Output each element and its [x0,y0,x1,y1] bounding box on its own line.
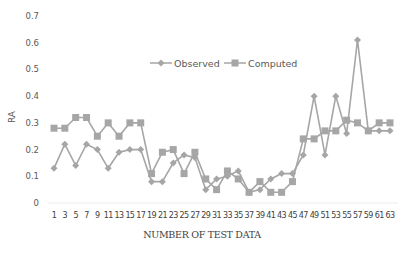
square-marker-icon [256,178,263,185]
square-marker-icon [235,175,242,182]
square-marker-icon [321,127,328,134]
square-marker-icon [202,175,209,182]
line-chart: 00.10.20.30.40.50.60.7 RA 13579111315171… [0,0,410,253]
x-tick-label: 1 [52,211,57,220]
x-tick-label: 21 [158,211,167,220]
x-tick-label: 19 [147,211,156,220]
square-marker-icon [105,119,112,126]
square-marker-icon [116,133,123,140]
diamond-marker-icon [376,127,383,134]
square-marker-icon [72,114,79,121]
y-tick-label: 0.6 [25,38,39,48]
x-tick-label: 17 [136,211,145,220]
series-observed [51,37,394,196]
x-tick-label: 37 [245,211,254,220]
legend-label-computed: Computed [248,58,297,69]
diamond-marker-icon [235,167,242,174]
square-marker-icon [387,119,394,126]
x-tick-label: 53 [331,211,340,220]
x-tick-label: 15 [125,211,134,220]
diamond-marker-icon [83,141,90,148]
x-tick-label: 47 [299,211,308,220]
square-marker-icon [300,135,307,142]
x-tick-label: 23 [169,211,178,220]
diamond-marker-icon [159,178,166,185]
x-tick-label: 39 [255,211,264,220]
x-tick-label: 41 [266,211,275,220]
x-tick-label: 5 [73,211,78,220]
diamond-marker-icon [72,162,79,169]
y-tick-label: 0 [34,198,39,208]
y-tick-label: 0.5 [25,64,39,74]
x-tick-label: 3 [63,211,68,220]
square-marker-icon [289,178,296,185]
square-marker-icon [61,125,68,132]
x-tick-label: 43 [277,211,286,220]
square-marker-icon [83,114,90,121]
diamond-marker-icon [332,93,339,100]
diamond-marker-icon [148,178,155,185]
diamond-marker-icon [387,127,394,134]
diamond-marker-icon [51,165,58,172]
square-marker-icon [365,127,372,134]
diamond-marker-icon [311,93,318,100]
diamond-marker-icon [126,146,133,153]
diamond-marker-icon [354,37,361,44]
x-tick-label: 55 [342,211,351,220]
square-marker-icon [232,60,239,67]
square-marker-icon [148,170,155,177]
diamond-marker-icon [321,151,328,158]
y-tick-label: 0.3 [25,118,39,128]
square-marker-icon [126,119,133,126]
y-tick-label: 0.2 [25,145,39,155]
diamond-marker-icon [94,146,101,153]
square-marker-icon [343,117,350,124]
square-marker-icon [246,189,253,196]
legend-item-computed: Computed [224,58,297,69]
y-axis-ticks: 00.10.20.30.40.50.60.7 [25,11,39,208]
diamond-marker-icon [278,170,285,177]
y-tick-label: 0.4 [25,91,39,101]
series-layer [51,37,394,196]
diamond-marker-icon [61,141,68,148]
square-marker-icon [137,119,144,126]
x-tick-label: 35 [234,211,243,220]
square-marker-icon [278,189,285,196]
square-marker-icon [213,186,220,193]
series-computed [51,114,394,196]
diamond-marker-icon [343,130,350,137]
diamond-marker-icon [137,146,144,153]
x-tick-label: 61 [375,211,384,220]
square-marker-icon [191,149,198,156]
y-tick-label: 0.7 [25,11,39,21]
square-marker-icon [376,119,383,126]
x-tick-label: 29 [201,211,210,220]
series-line [54,118,390,193]
x-tick-label: 9 [95,211,100,220]
square-marker-icon [170,146,177,153]
x-tick-label: 57 [353,211,362,220]
square-marker-icon [311,135,318,142]
y-tick-label: 0.1 [25,171,39,181]
x-tick-label: 49 [310,211,319,220]
x-tick-label: 7 [84,211,89,220]
series-line [54,40,390,192]
square-marker-icon [267,189,274,196]
x-tick-label: 45 [288,211,297,220]
x-tick-label: 11 [104,211,113,220]
x-tick-label: 59 [364,211,373,220]
x-axis-label: NUMBER OF TEST DATA [143,229,261,240]
square-marker-icon [181,170,188,177]
x-tick-label: 25 [180,211,189,220]
diamond-marker-icon [300,151,307,158]
square-marker-icon [51,125,58,132]
square-marker-icon [224,167,231,174]
square-marker-icon [332,127,339,134]
y-axis-label: RA [7,110,17,123]
square-marker-icon [159,149,166,156]
legend: Observed Computed [150,58,297,69]
x-tick-label: 63 [386,211,395,220]
x-tick-label: 27 [190,211,199,220]
x-tick-label: 13 [115,211,124,220]
legend-label-observed: Observed [174,58,220,69]
